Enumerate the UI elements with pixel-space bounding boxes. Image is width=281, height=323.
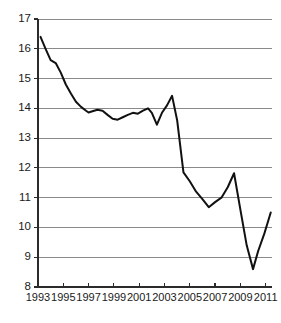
y-axis-tick-label: 13 [18, 131, 31, 143]
x-axis-tick-label: 2009 [228, 291, 252, 303]
x-axis-tick-label: 1993 [26, 291, 50, 303]
x-axis-tick-labels: 1993199519971999200120032005200720092011 [26, 291, 278, 303]
x-axis-tick-label: 2007 [203, 291, 227, 303]
gridlines [34, 19, 272, 287]
y-axis-tick-label: 11 [19, 191, 31, 203]
x-axis-tick-label: 2001 [127, 291, 151, 303]
x-axis-tick-label: 1995 [51, 291, 75, 303]
y-axis-tick-label: 12 [18, 161, 31, 173]
x-axis-tick-label: 1999 [102, 291, 126, 303]
x-axis-tick-label: 1997 [76, 291, 100, 303]
x-axis-tick-label: 2005 [178, 291, 202, 303]
chart-plot-area: 891011121314151617 199319951997199920012… [0, 0, 281, 323]
x-axis-tick-label: 2003 [152, 291, 176, 303]
y-axis-tick-label: 16 [18, 42, 31, 54]
y-axis-tick-label: 10 [18, 220, 31, 232]
x-axis-tick-label: 2011 [254, 291, 278, 303]
y-axis-tick-label: 15 [18, 72, 31, 84]
data-series-line [41, 37, 271, 269]
y-axis-tick-label: 9 [25, 250, 31, 262]
y-axis-tick-labels: 891011121314151617 [18, 12, 31, 292]
y-axis-tick-label: 14 [18, 101, 31, 113]
y-axis-tick-label: 17 [18, 12, 31, 24]
line-chart: 891011121314151617 199319951997199920012… [0, 0, 281, 323]
